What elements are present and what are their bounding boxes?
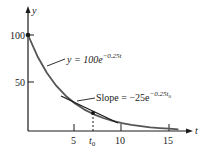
- x-tick-label-5: 5: [71, 135, 76, 146]
- decay-curve: [28, 35, 178, 129]
- curve-equation-label: y = 100e−0.25t: [66, 52, 123, 65]
- x-tick-label-t0: t0: [89, 135, 96, 148]
- point-t0: [91, 111, 95, 115]
- y-tick-label-50: 50: [15, 77, 25, 88]
- y-axis-arrow-icon: [26, 6, 31, 13]
- y-axis-label: y: [31, 5, 37, 16]
- slope-label: Slope = −25e−0.25t0: [96, 90, 171, 103]
- point-0-100: [26, 33, 31, 38]
- y-tick-label-100: 100: [10, 30, 25, 41]
- slope-leader-line: [77, 98, 95, 101]
- x-axis-label: t: [195, 125, 198, 136]
- x-tick-label-15: 15: [163, 135, 173, 146]
- curve-leader-line: [47, 59, 65, 66]
- x-tick-label-10: 10: [115, 135, 125, 146]
- exponential-decay-chart: y t 100 50 5 t0 10 15 y = 100e−0.25t Slo…: [0, 0, 203, 153]
- x-axis-arrow-icon: [186, 129, 193, 134]
